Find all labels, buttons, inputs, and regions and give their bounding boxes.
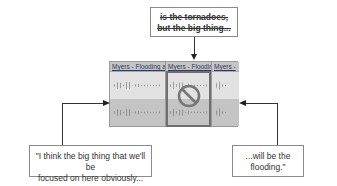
audio-clip[interactable]: Myers - [212, 62, 239, 126]
quote-start-line-2: focused on here obviously... [30, 173, 151, 184]
arrow-down-icon [191, 54, 197, 60]
track-lane-2 [212, 99, 239, 126]
connector-right-vertical [277, 103, 278, 145]
quote-end-callout: ...will be the flooding." [232, 145, 304, 177]
removed-phrase-line-2: but the big thing... [151, 23, 237, 34]
clip-title: Myers - Flooding a [110, 62, 165, 72]
track-lane-1 [110, 72, 165, 99]
track-lane-1 [212, 72, 239, 99]
quote-start-callout: "I think the big thing that we'll be foc… [29, 145, 152, 177]
waveform [114, 81, 161, 91]
removed-phrase-callout: is the tornadoes, but the big thing... [150, 7, 238, 37]
arrow-left-icon [239, 100, 246, 106]
quote-start-line-1: "I think the big thing that we'll be [30, 151, 151, 173]
audio-clip[interactable]: Myers - Flooding a [110, 62, 166, 126]
waveform [216, 81, 228, 91]
track-lane-2 [110, 99, 165, 126]
connector-right-horizontal [245, 103, 278, 104]
arrow-right-icon [103, 100, 110, 106]
connector-top [194, 37, 195, 55]
waveform [114, 108, 161, 118]
connector-left-vertical [62, 103, 63, 145]
removed-phrase-line-1: is the tornadoes, [151, 12, 237, 23]
quote-end-line-1: ...will be the [233, 151, 303, 162]
audio-timeline: Myers - Flooding a Myers - Floodin Myers… [109, 61, 238, 127]
prohibited-icon [177, 84, 201, 108]
waveform [216, 108, 228, 118]
connector-left-horizontal [62, 103, 104, 104]
quote-end-line-2: flooding." [233, 162, 303, 173]
clip-title: Myers - [212, 62, 239, 72]
